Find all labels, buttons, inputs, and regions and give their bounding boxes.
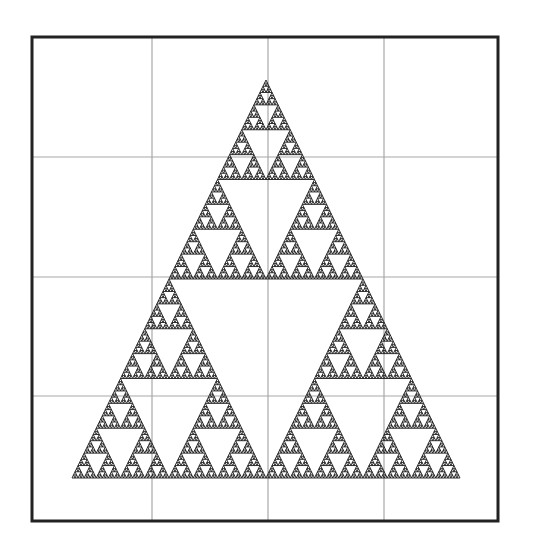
sierpinski-figure <box>0 0 535 554</box>
